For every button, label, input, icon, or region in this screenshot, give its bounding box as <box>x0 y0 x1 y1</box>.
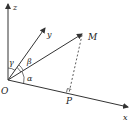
gamma-label: γ <box>9 58 14 67</box>
alpha-arc <box>22 71 24 83</box>
z-axis-label: z <box>12 3 18 12</box>
alpha-label: α <box>27 74 33 83</box>
vector-om <box>8 34 82 80</box>
x-axis-label: x <box>123 113 128 122</box>
y-axis-label: y <box>46 30 52 39</box>
point-p-label: P <box>65 96 73 106</box>
gamma-arc <box>8 68 15 70</box>
right-angle-marker <box>67 89 72 93</box>
direction-angle-diagram: z y x O M P α β γ <box>0 0 132 128</box>
y-axis <box>8 28 45 80</box>
beta-label: β <box>26 57 32 66</box>
beta-arc <box>17 68 21 73</box>
segment-mp <box>69 35 82 93</box>
point-m-label: M <box>87 32 98 42</box>
origin-label: O <box>1 86 9 96</box>
